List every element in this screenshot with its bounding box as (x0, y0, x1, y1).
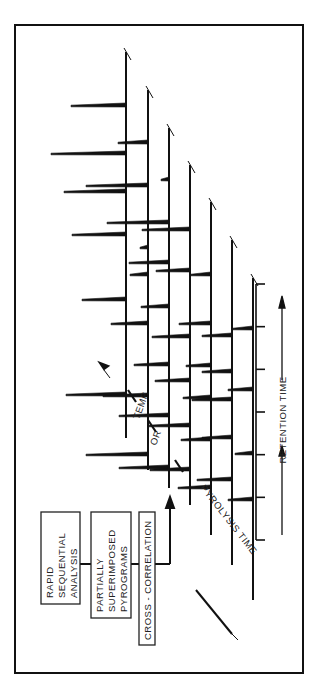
pyrolysis-time-label: PYROLYSIS TIME (198, 482, 259, 556)
retention-time-label: RETENTION TIME (277, 376, 288, 463)
box-cross-correlation: CROSS - CORRELATION (139, 512, 155, 645)
svg-text:PYROGRAMS: PYROGRAMS (118, 546, 129, 612)
box-rapid-sequential-analysis: RAPID SEQUENTIAL ANALYSIS (41, 512, 80, 604)
svg-text:ANALYSIS: ANALYSIS (68, 548, 79, 598)
svg-text:RAPID: RAPID (44, 566, 55, 598)
or-label: OR (148, 429, 164, 447)
retention-axis (256, 284, 265, 540)
svg-text:PARTIALLY: PARTIALLY (94, 558, 105, 612)
svg-text:SUPERIMPOSED: SUPERIMPOSED (106, 529, 117, 612)
box-partially-superimposed-pyrograms: PARTIALLY SUPERIMPOSED PYROGRAMS (91, 512, 131, 618)
svg-text:CROSS - CORRELATION: CROSS - CORRELATION (142, 520, 153, 640)
pyrolysis-time-arrow (196, 590, 232, 634)
pyrogram-diagram: RETENTION TIME PYROLYSIS TIME OR TEMP. R… (0, 0, 324, 692)
svg-text:SEQUENTIAL: SEQUENTIAL (56, 533, 67, 598)
